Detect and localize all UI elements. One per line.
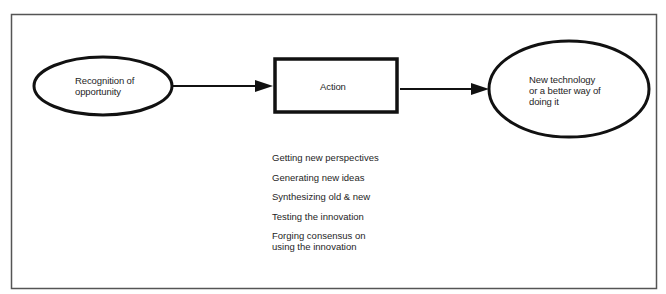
action-step-text: Generating new ideas [272, 173, 379, 184]
label-line: Recognition of [75, 75, 134, 86]
arrowhead-icon [471, 83, 489, 95]
label-line: or a better way of [529, 85, 601, 96]
arrowhead-icon [255, 80, 273, 92]
action-step: Generating new ideas [272, 173, 379, 184]
label-line: New technology [529, 74, 601, 85]
action-step-text: Testing the innovation [272, 212, 379, 223]
action-step-text: Forging consensus on [272, 231, 379, 242]
action-step: Testing the innovation [272, 212, 379, 223]
action-step: Getting new perspectives [272, 153, 379, 164]
action-step-text: Getting new perspectives [272, 153, 379, 164]
action-steps-list: Getting new perspectives Generating new … [272, 153, 379, 260]
label-line: opportunity [75, 86, 134, 97]
node-recognition-label: Recognition of opportunity [75, 75, 134, 97]
action-step: Synthesizing old & new [272, 192, 379, 203]
node-new-technology-label: New technology or a better way of doing … [529, 74, 601, 107]
action-step-text: Synthesizing old & new [272, 192, 379, 203]
label-line: doing it [529, 96, 601, 107]
action-step-text: using the innovation [272, 242, 379, 253]
node-action-label: Action [320, 81, 346, 92]
action-step: Forging consensus on using the innovatio… [272, 231, 379, 252]
